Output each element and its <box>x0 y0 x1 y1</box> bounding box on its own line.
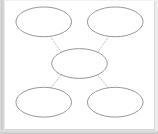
node-bottom-left-shape[interactable] <box>16 87 72 117</box>
app-root <box>0 0 158 134</box>
node-bottom-right-shape[interactable] <box>87 87 143 117</box>
connector-center-to-top-right[interactable] <box>97 36 109 53</box>
connector-center-to-bottom-left[interactable] <box>50 74 62 89</box>
node-top-left[interactable] <box>16 7 72 37</box>
page-gutter-left <box>0 0 4 134</box>
node-top-right-shape[interactable] <box>87 7 143 37</box>
concept-map-canvas[interactable] <box>5 1 154 129</box>
node-center[interactable] <box>52 49 108 79</box>
document-page <box>5 1 155 130</box>
page-gutter-right <box>155 0 158 134</box>
node-top-right[interactable] <box>87 7 143 37</box>
connector-center-to-bottom-right[interactable] <box>97 74 109 89</box>
node-bottom-right[interactable] <box>87 87 143 117</box>
node-top-left-shape[interactable] <box>16 7 72 37</box>
node-bottom-left[interactable] <box>16 87 72 117</box>
nodes-layer <box>16 7 143 117</box>
connector-center-to-top-left[interactable] <box>50 36 62 53</box>
node-center-shape[interactable] <box>52 49 108 79</box>
page-gutter-bottom <box>0 130 158 134</box>
